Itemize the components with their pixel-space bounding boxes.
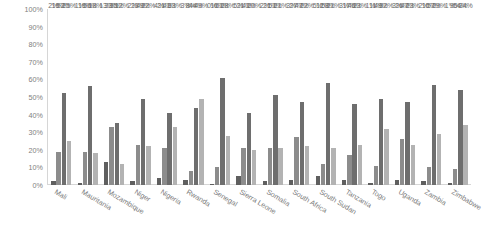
bar[interactable]: 44% [194, 108, 198, 185]
bar[interactable]: 21% [331, 148, 335, 185]
bar[interactable]: 0% [210, 184, 214, 185]
bar[interactable]: 3% [183, 180, 187, 185]
bar-wrapper: 11% [374, 9, 378, 185]
bar[interactable]: 32% [384, 129, 388, 185]
bar[interactable]: 41% [167, 113, 171, 185]
bar[interactable]: 51% [273, 95, 277, 185]
x-axis-label-cell: Mali [48, 186, 74, 239]
bar[interactable]: 22% [305, 146, 309, 185]
bar-wrapper: 46% [352, 9, 356, 185]
bar-wrapper: 4% [157, 9, 161, 185]
bar-wrapper: 47% [300, 9, 304, 185]
bar[interactable]: 57% [432, 85, 436, 185]
bar[interactable]: 54% [458, 90, 462, 185]
bar[interactable]: 5% [236, 176, 240, 185]
bar-group: 1%9%54%34% [445, 9, 471, 185]
bar[interactable]: 10% [215, 167, 219, 185]
bar[interactable]: 34% [463, 125, 467, 185]
bar[interactable]: 41% [247, 113, 251, 185]
bar[interactable]: 12% [120, 164, 124, 185]
bar-wrapper: 51% [273, 9, 277, 185]
bar[interactable]: 49% [199, 99, 203, 185]
bar[interactable]: 52% [62, 93, 66, 185]
bar[interactable]: 1% [448, 183, 452, 185]
bar[interactable]: 28% [226, 136, 230, 185]
x-axis-label-cell: Niger [127, 186, 153, 239]
bar-group: 0%10%61%28% [207, 9, 233, 185]
bar-wrapper: 41% [247, 9, 251, 185]
bar[interactable]: 3% [342, 180, 346, 185]
bar-wrapper: 8% [189, 9, 193, 185]
bar-wrapper: 22% [146, 9, 150, 185]
bar[interactable]: 18% [93, 153, 97, 185]
x-axis-label-cell: Somalia [260, 186, 286, 239]
bar[interactable]: 20% [252, 150, 256, 185]
bar-wrapper: 29% [437, 9, 441, 185]
bar[interactable]: 49% [141, 99, 145, 185]
bar[interactable]: 10% [427, 167, 431, 185]
bar[interactable]: 17% [347, 155, 351, 185]
bar-wrapper: 3% [183, 9, 187, 185]
bar[interactable]: 21% [241, 148, 245, 185]
bar[interactable]: 58% [326, 83, 330, 185]
bar[interactable]: 13% [104, 162, 108, 185]
bar-wrapper: 47% [405, 9, 409, 185]
bar[interactable]: 56% [88, 86, 92, 185]
bar[interactable]: 21% [278, 148, 282, 185]
bar[interactable]: 4% [157, 178, 161, 185]
bar[interactable]: 2% [51, 181, 55, 185]
bar[interactable]: 5% [316, 176, 320, 185]
bar[interactable]: 2% [421, 181, 425, 185]
bar-group: 2%23%49%22% [127, 9, 153, 185]
bar[interactable]: 26% [400, 139, 404, 185]
bar-wrapper: 52% [62, 9, 66, 185]
bar[interactable]: 23% [136, 145, 140, 185]
bar-wrapper: 2% [263, 9, 267, 185]
bar[interactable]: 33% [109, 127, 113, 185]
bar-wrapper: 49% [379, 9, 383, 185]
y-axis-tick: 10% [0, 163, 43, 172]
bar[interactable]: 21% [268, 148, 272, 185]
bar-wrapper: 33% [173, 9, 177, 185]
bar[interactable]: 8% [189, 171, 193, 185]
bar[interactable]: 23% [411, 145, 415, 185]
bar[interactable]: 1% [368, 183, 372, 185]
bar[interactable]: 3% [289, 180, 293, 185]
bar[interactable]: 23% [358, 145, 362, 185]
bar[interactable]: 1% [78, 183, 82, 185]
bar[interactable]: 19% [56, 152, 60, 185]
bar[interactable]: 33% [173, 127, 177, 185]
bar[interactable]: 22% [146, 146, 150, 185]
bar[interactable]: 12% [321, 164, 325, 185]
bar-group: 1%19%56%18% [74, 9, 100, 185]
bar[interactable]: 9% [453, 169, 457, 185]
x-axis-tick-label: Nigeria [159, 188, 182, 206]
bar[interactable]: 47% [405, 102, 409, 185]
bar[interactable]: 2% [130, 181, 134, 185]
x-axis-tick-label: Niger [133, 188, 151, 203]
bar[interactable]: 35% [115, 123, 119, 185]
bar[interactable]: 27% [294, 137, 298, 185]
bar-group: 13%33%35%12% [101, 9, 127, 185]
bar[interactable]: 2% [263, 181, 267, 185]
bar[interactable]: 61% [220, 78, 224, 185]
x-axis-label-cell: Rwanda [180, 186, 206, 239]
bar[interactable]: 46% [352, 104, 356, 185]
x-axis-tick-label: Togo [371, 188, 388, 202]
bar[interactable]: 47% [300, 102, 304, 185]
bar[interactable]: 19% [83, 152, 87, 185]
bar[interactable]: 3% [395, 180, 399, 185]
bar[interactable]: 49% [379, 99, 383, 185]
bar-group: 4%21%41%33% [154, 9, 180, 185]
bar-wrapper: 3% [342, 9, 346, 185]
bar[interactable]: 21% [162, 148, 166, 185]
y-axis-tick: 40% [0, 110, 43, 119]
bar[interactable]: 29% [437, 134, 441, 185]
bar[interactable]: 11% [374, 166, 378, 185]
y-axis-tick: 60% [0, 75, 43, 84]
bar-wrapper: 1% [448, 9, 452, 185]
bar-wrapper: 1% [368, 9, 372, 185]
bar-wrapper: 21% [241, 9, 245, 185]
bar[interactable]: 25% [67, 141, 71, 185]
bar-wrapper: 2% [421, 9, 425, 185]
